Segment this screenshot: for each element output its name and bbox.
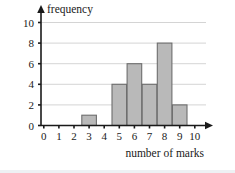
- bar-3: [82, 115, 97, 125]
- y-tick-label-10: 10: [23, 17, 35, 29]
- x-tick-label-5: 5: [117, 130, 123, 142]
- bar-7: [142, 84, 157, 125]
- y-tick-label-8: 8: [29, 37, 35, 49]
- y-tick-label-0: 0: [29, 120, 35, 132]
- bar-8: [157, 43, 172, 125]
- x-axis-title: number of marks: [125, 147, 204, 159]
- x-tick-label-1: 1: [56, 130, 62, 142]
- x-tick-label-9: 9: [177, 130, 183, 142]
- x-tick-label-0: 0: [41, 130, 47, 142]
- bar-6: [127, 64, 142, 126]
- y-tick-label-2: 2: [29, 99, 35, 111]
- y-axis-arrow-icon: [37, 5, 45, 13]
- y-tick-label-6: 6: [29, 58, 35, 70]
- x-tick-label-7: 7: [147, 130, 153, 142]
- x-tick-label-6: 6: [132, 130, 138, 142]
- x-tick-label-2: 2: [71, 130, 77, 142]
- bottom-edge-band: [0, 170, 235, 173]
- x-axis-arrow-icon: [205, 122, 213, 130]
- x-tick-label-4: 4: [101, 130, 107, 142]
- bar-9: [172, 105, 187, 126]
- x-tick-label-10: 10: [189, 130, 201, 142]
- x-tick-label-8: 8: [162, 130, 168, 142]
- chart-canvas: 0 2 4 6 8 10 0 1 2 3 4 5 6 7 8 9 10 freq…: [0, 0, 235, 173]
- x-tick-labels-group: 0 1 2 3 4 5 6 7 8 9 10: [41, 130, 201, 142]
- y-tick-labels-group: 0 2 4 6 8 10: [23, 17, 35, 132]
- x-tick-label-3: 3: [86, 130, 92, 142]
- histogram-chart: 0 2 4 6 8 10 0 1 2 3 4 5 6 7 8 9 10 freq…: [0, 0, 235, 173]
- y-tick-label-4: 4: [29, 78, 35, 90]
- y-axis-title: frequency: [47, 3, 93, 16]
- bar-5: [112, 84, 127, 125]
